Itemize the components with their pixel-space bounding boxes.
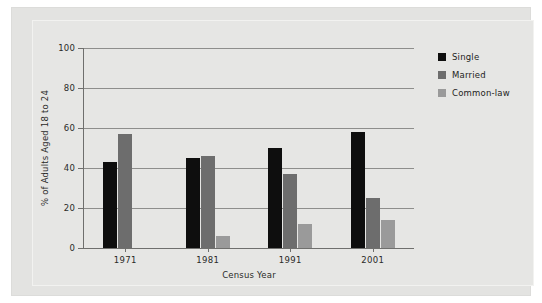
x-axis-line	[83, 248, 414, 249]
y-tick-label: 0	[69, 243, 75, 253]
plot-area: 020406080100 1971198119912001	[84, 48, 414, 248]
legend-label: Single	[452, 52, 479, 62]
figure-background: % of Adults Aged 18 to 24 020406080100 1…	[12, 8, 530, 295]
bar-single-1971	[103, 162, 117, 248]
bar-commonlaw-1981	[216, 236, 230, 248]
x-tick-label: 2001	[361, 255, 384, 265]
y-axis-title: % of Adults Aged 18 to 24	[40, 90, 50, 206]
x-tick-mark	[208, 248, 209, 252]
legend-swatch-icon	[438, 53, 446, 61]
legend-item: Single	[438, 50, 510, 64]
legend-swatch-icon	[438, 71, 446, 79]
x-tick-label: 1971	[114, 255, 137, 265]
bar-commonlaw-1991	[298, 224, 312, 248]
legend-item: Common-law	[438, 86, 510, 100]
bar-group	[84, 48, 167, 248]
legend-item: Married	[438, 68, 510, 82]
y-tick-label: 100	[58, 43, 75, 53]
chart-legend: SingleMarriedCommon-law	[438, 50, 510, 104]
x-tick-label: 1981	[196, 255, 219, 265]
y-tick-label: 80	[64, 83, 75, 93]
bar-single-1991	[268, 148, 282, 248]
y-tick-label: 60	[64, 123, 75, 133]
x-tick-mark	[373, 248, 374, 252]
legend-swatch-icon	[438, 89, 446, 97]
y-tick-mark	[78, 248, 84, 249]
bar-married-2001	[366, 198, 380, 248]
bar-single-2001	[351, 132, 365, 248]
bar-married-1991	[283, 174, 297, 248]
legend-label: Common-law	[452, 88, 510, 98]
x-tick-mark	[290, 248, 291, 252]
x-tick-label: 1991	[279, 255, 302, 265]
y-tick-label: 20	[64, 203, 75, 213]
bar-group	[332, 48, 415, 248]
bar-married-1971	[118, 134, 132, 248]
x-tick-mark	[125, 248, 126, 252]
bar-group	[249, 48, 332, 248]
x-axis-title: Census Year	[84, 270, 414, 280]
legend-label: Married	[452, 70, 486, 80]
chart-screenshot: % of Adults Aged 18 to 24 020406080100 1…	[0, 0, 542, 303]
bar-married-1981	[201, 156, 215, 248]
bar-single-1981	[186, 158, 200, 248]
y-tick-label: 40	[64, 163, 75, 173]
bar-group	[167, 48, 250, 248]
bar-commonlaw-2001	[381, 220, 395, 248]
